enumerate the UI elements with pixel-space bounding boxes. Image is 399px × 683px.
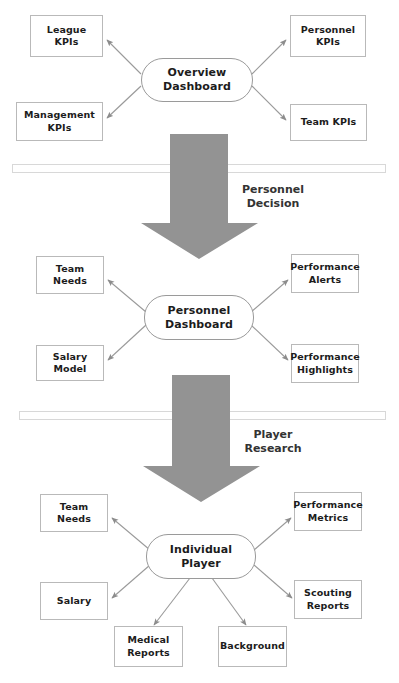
node-medical-reports-line1: Medical [124,634,173,646]
node-individual-player-line1: Individual [167,543,235,557]
node-overview-dashboard-line1: Overview [160,66,234,80]
node-scouting-reports-text: Scouting Reports [298,587,358,611]
node-team-needs-personnel-line1: Team Needs [40,263,100,287]
node-personnel-dashboard-line1: Personnel [162,304,236,318]
node-salary[interactable]: Salary [40,582,108,620]
node-performance-highlights-line1: Performance [287,351,363,363]
node-performance-metrics[interactable]: Performance Metrics [294,492,362,531]
node-personnel-kpis[interactable]: Personnel KPIs [290,15,366,57]
node-league-kpis-line2: KPIs [44,36,90,48]
node-management-kpis-line1: Management [21,109,98,121]
node-scouting-reports-line1: Scouting [301,587,355,599]
node-overview-dashboard-text: Overview Dashboard [157,66,237,94]
node-background-line1: Background [217,640,288,652]
node-league-kpis-line1: League [44,24,90,36]
node-individual-player-text: Individual Player [164,543,238,571]
node-performance-metrics-text: Performance Metrics [287,499,369,523]
node-background-text: Background [214,640,291,652]
node-team-kpis[interactable]: Team KPIs [290,104,367,141]
node-performance-alerts-line2: Alerts [287,274,363,286]
node-personnel-kpis-line2: KPIs [298,36,358,48]
node-personnel-dashboard-text: Personnel Dashboard [159,304,239,332]
node-management-kpis-line2: KPIs [21,122,98,134]
node-team-kpis-text: Team KPIs [295,116,363,128]
node-salary-model-text: Salary Model [37,351,103,375]
node-personnel-dashboard[interactable]: Personnel Dashboard [144,295,254,340]
node-personnel-kpis-line1: Personnel [298,24,358,36]
stage-label-personnel-decision: Personnel Decision [213,183,333,212]
node-salary-line1: Salary [54,595,94,607]
node-team-needs-player-text: Team Needs [41,501,107,525]
stage-label-personnel-decision-line1: Personnel [213,183,333,197]
node-scouting-reports-line2: Reports [301,600,355,612]
node-medical-reports[interactable]: Medical Reports [114,626,183,667]
node-personnel-kpis-text: Personnel KPIs [295,24,361,48]
stage-label-player-research-line2: Research [213,442,333,456]
stage-label-player-research: Player Research [213,428,333,457]
node-individual-player-line2: Player [167,557,235,571]
node-performance-alerts-text: Performance Alerts [284,261,366,285]
node-salary-text: Salary [51,595,97,607]
node-league-kpis-text: League KPIs [41,24,93,48]
node-individual-player[interactable]: Individual Player [146,534,256,579]
node-performance-highlights[interactable]: Performance Highlights [291,344,359,383]
node-overview-dashboard[interactable]: Overview Dashboard [141,58,253,102]
node-salary-model[interactable]: Salary Model [36,345,104,381]
stage-label-player-research-line1: Player [213,428,333,442]
node-management-kpis[interactable]: Management KPIs [16,102,103,141]
node-team-needs-player-line1: Team Needs [44,501,104,525]
node-performance-highlights-line2: Highlights [287,364,363,376]
node-management-kpis-text: Management KPIs [18,109,101,133]
node-performance-metrics-line2: Metrics [290,512,366,524]
flow-diagram: League KPIs Personnel KPIs Overview Dash… [0,0,399,683]
node-personnel-dashboard-line2: Dashboard [162,318,236,332]
node-scouting-reports[interactable]: Scouting Reports [294,580,362,619]
node-team-needs-personnel-text: Team Needs [37,263,103,287]
node-performance-metrics-line1: Performance [290,499,366,511]
node-medical-reports-line2: Reports [124,647,173,659]
node-background[interactable]: Background [218,626,287,667]
node-league-kpis[interactable]: League KPIs [30,15,103,57]
node-team-needs-player[interactable]: Team Needs [40,494,108,532]
node-team-kpis-line1: Team KPIs [298,116,360,128]
node-overview-dashboard-line2: Dashboard [160,80,234,94]
node-performance-alerts-line1: Performance [287,261,363,273]
node-team-needs-personnel[interactable]: Team Needs [36,256,104,294]
node-salary-model-line1: Salary Model [40,351,100,375]
node-medical-reports-text: Medical Reports [121,634,176,658]
stage-label-personnel-decision-line2: Decision [213,197,333,211]
node-performance-highlights-text: Performance Highlights [284,351,366,375]
node-performance-alerts[interactable]: Performance Alerts [291,254,359,293]
